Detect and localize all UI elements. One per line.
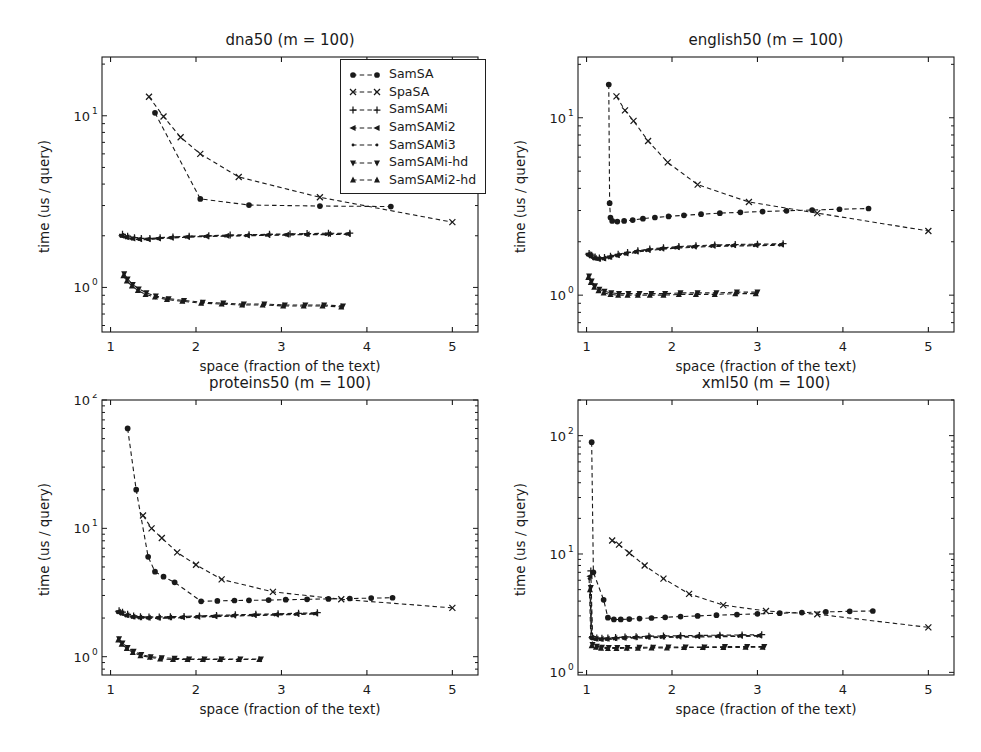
series-markers-SamSAMi2-hd — [585, 274, 758, 298]
svg-text:5: 5 — [924, 682, 932, 697]
series-line-SamSA — [128, 428, 393, 601]
legend-item-SamSAMi: SamSAMi — [348, 100, 476, 118]
svg-text:0: 0 — [92, 647, 98, 657]
series-line-SpaSA — [143, 515, 452, 607]
series-markers-SamSAMi3 — [119, 233, 347, 241]
svg-text:10: 10 — [549, 429, 566, 444]
y-axis-label-xml50: time (us / query) — [512, 482, 528, 595]
svg-text:10: 10 — [73, 521, 90, 536]
chart-title-dna50: dna50 (m = 100) — [102, 31, 478, 49]
legend-item-SamSAMi2-hd: SamSAMi2-hd — [348, 171, 476, 189]
svg-text:2: 2 — [668, 682, 676, 697]
legend-marker-plus-icon — [348, 102, 382, 116]
series-line-SpaSA — [612, 541, 928, 628]
legend-marker-up-triangle-icon — [348, 172, 382, 186]
legend-marker-small-dot-icon — [348, 137, 382, 151]
chart-axes-xml50: 12345100101102 — [518, 394, 962, 721]
chart-title-english50: english50 (m = 100) — [578, 31, 954, 49]
series-line-SamSA — [592, 442, 873, 619]
legend-marker-x-icon — [348, 84, 382, 98]
series-markers-SamSAMi-hd — [116, 636, 264, 662]
svg-text:10: 10 — [549, 111, 566, 126]
svg-text:3: 3 — [277, 339, 285, 354]
svg-text:5: 5 — [924, 339, 932, 354]
chart-axes-proteins50: 12345100101102 — [42, 394, 486, 721]
series-line-SpaSA — [616, 96, 928, 231]
x-axis-label-xml50: space (fraction of the text) — [578, 701, 954, 717]
chart-title-proteins50: proteins50 (m = 100) — [102, 374, 478, 392]
svg-text:10: 10 — [73, 109, 90, 124]
svg-text:2: 2 — [92, 394, 98, 400]
series-line-SamSAMi — [591, 571, 762, 638]
series-markers-SamSA — [125, 426, 396, 605]
svg-text:4: 4 — [839, 682, 847, 697]
svg-text:2: 2 — [568, 426, 574, 436]
svg-text:1: 1 — [582, 682, 590, 697]
legend-label: SpaSA — [382, 84, 429, 99]
series-line-SamSAMi-hd — [589, 276, 757, 293]
chart-panel-proteins50: proteins50 (m = 100)12345100101102space … — [102, 400, 478, 675]
chart-legend: SamSASpaSASamSAMiSamSAMi2SamSAMi3SamSAMi… — [340, 59, 486, 194]
x-axis-label-proteins50: space (fraction of the text) — [102, 701, 478, 717]
legend-item-SamSAMi2: SamSAMi2 — [348, 118, 476, 136]
svg-text:4: 4 — [363, 682, 371, 697]
legend-item-SamSA: SamSA — [348, 65, 476, 83]
series-markers-SamSAMi2 — [586, 573, 761, 642]
series-markers-SamSA — [589, 439, 876, 622]
series-line-SamSAMi3 — [589, 579, 757, 640]
figure-canvas: dna50 (m = 100)12345100101space (fractio… — [0, 0, 981, 752]
legend-label: SamSAMi — [382, 101, 448, 116]
series-line-SamSA — [609, 84, 869, 221]
x-axis-label-english50: space (fraction of the text) — [578, 358, 954, 374]
chart-panel-english50: english50 (m = 100)12345100101space (fra… — [578, 57, 954, 332]
svg-text:3: 3 — [753, 682, 761, 697]
chart-panel-xml50: xml50 (m = 100)12345100101102space (frac… — [578, 400, 954, 675]
svg-text:10: 10 — [549, 665, 566, 680]
series-markers-SpaSA — [609, 538, 931, 631]
chart-panel-dna50: dna50 (m = 100)12345100101space (fractio… — [102, 57, 478, 332]
svg-text:2: 2 — [192, 339, 200, 354]
svg-text:10: 10 — [549, 288, 566, 303]
series-line-SamSAMi-hd — [124, 274, 343, 306]
legend-marker-left-triangle-icon — [348, 120, 382, 134]
legend-label: SamSAMi-hd — [382, 154, 468, 169]
svg-text:1: 1 — [568, 108, 574, 118]
chart-title-xml50: xml50 (m = 100) — [578, 374, 954, 392]
legend-item-SamSAMi-hd: SamSAMi-hd — [348, 153, 476, 171]
series-markers-SamSA — [606, 82, 871, 225]
svg-text:1: 1 — [568, 544, 574, 554]
series-markers-SamSAMi3 — [588, 577, 759, 641]
svg-text:1: 1 — [92, 106, 98, 116]
legend-marker-down-triangle-icon — [348, 155, 382, 169]
legend-marker-circle-icon — [348, 67, 382, 81]
svg-text:5: 5 — [448, 339, 456, 354]
svg-text:1: 1 — [582, 339, 590, 354]
svg-text:2: 2 — [668, 339, 676, 354]
legend-label: SamSAMi3 — [382, 137, 456, 152]
series-markers-SpaSA — [613, 93, 931, 234]
svg-text:4: 4 — [363, 339, 371, 354]
series-markers-SamSAMi — [587, 567, 765, 641]
y-axis-label-english50: time (us / query) — [512, 139, 528, 252]
svg-text:1: 1 — [106, 682, 114, 697]
legend-label: SamSAMi2 — [382, 119, 456, 134]
svg-text:10: 10 — [73, 650, 90, 665]
y-axis-label-proteins50: time (us / query) — [36, 482, 52, 595]
svg-text:3: 3 — [753, 339, 761, 354]
y-axis-label-dna50: time (us / query) — [36, 139, 52, 252]
x-axis-label-dna50: space (fraction of the text) — [102, 358, 478, 374]
series-markers-SamSAMi2 — [118, 231, 351, 242]
svg-text:4: 4 — [839, 339, 847, 354]
legend-item-SpaSA: SpaSA — [348, 83, 476, 101]
svg-text:0: 0 — [92, 277, 98, 287]
svg-text:2: 2 — [192, 682, 200, 697]
svg-text:10: 10 — [549, 547, 566, 562]
svg-text:5: 5 — [448, 682, 456, 697]
svg-text:1: 1 — [106, 339, 114, 354]
svg-text:0: 0 — [568, 285, 574, 295]
svg-text:0: 0 — [568, 662, 574, 672]
series-markers-SpaSA — [140, 512, 455, 610]
svg-text:10: 10 — [73, 280, 90, 295]
series-line-SamSAMi2-hd — [123, 276, 341, 307]
svg-text:3: 3 — [277, 682, 285, 697]
